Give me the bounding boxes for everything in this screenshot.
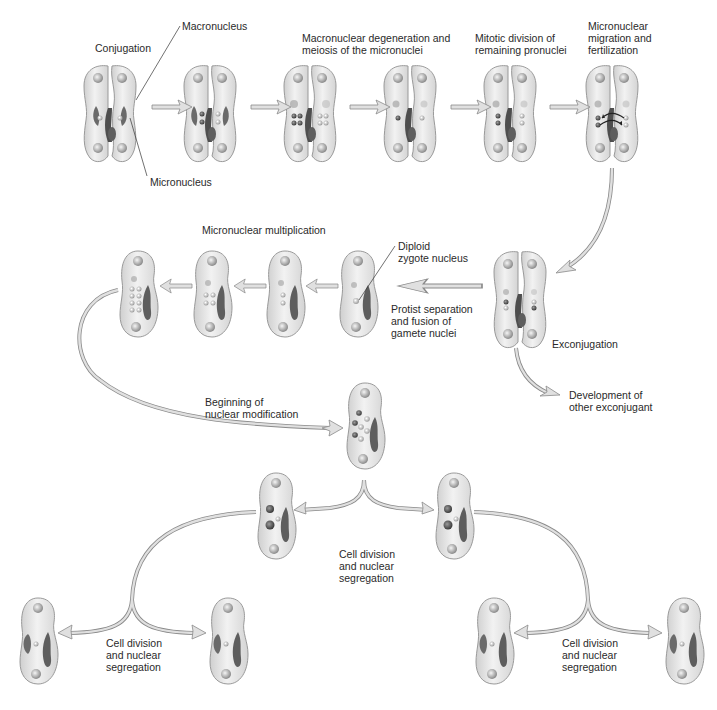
label-cell-division-left: Cell division and nuclear segregation: [106, 637, 162, 673]
arrow-left-icon: [234, 279, 266, 293]
label-macronucleus: Macronucleus: [182, 20, 247, 32]
final-cell-1: [20, 598, 58, 684]
label-beginning-modification: Beginning of nuclear modification: [205, 396, 298, 420]
label-micronucleus: Micronucleus: [150, 176, 212, 188]
multiplication-cell-1: [267, 251, 305, 337]
label-protist-separation: Protist separation and fusion of gamete …: [391, 303, 473, 339]
daughter-cell-left: [258, 473, 296, 559]
label-cell-division-right: Cell division and nuclear segregation: [562, 637, 618, 673]
arrow-right-icon: [550, 100, 590, 114]
multiplication-cell-2: [194, 251, 232, 337]
label-macronuclear-degeneration: Macronuclear degeneration and meiosis of…: [302, 32, 450, 56]
arrow-left-icon: [306, 279, 338, 293]
label-development-other: Development of other exconjugant: [569, 389, 652, 413]
stage-4-cell: [384, 66, 436, 162]
exconjugation-cell: [494, 252, 546, 348]
label-exconjugation: Exconjugation: [552, 338, 618, 350]
multiplication-cell-3: [120, 251, 158, 337]
arrow-right-icon: [451, 100, 491, 114]
daughter-cell-right: [436, 473, 474, 559]
arrow-right-icon: [251, 100, 291, 114]
stage-conjugation-cell: [84, 66, 136, 162]
curve-arrow-development: [516, 348, 548, 393]
stage-5-cell: [484, 66, 536, 162]
stage-6-cell: [586, 66, 638, 162]
zygote-cell: [340, 251, 378, 337]
label-mitotic-division: Mitotic division of remaining pronuclei: [475, 32, 567, 56]
final-cell-2: [210, 598, 248, 684]
final-cell-4: [666, 598, 704, 684]
label-conjugation: Conjugation: [95, 42, 151, 54]
conjugation-lifecycle-diagram: [0, 0, 717, 710]
stage-3-cell: [284, 66, 336, 162]
label-micronuclear-multiplication: Micronuclear multiplication: [202, 224, 326, 236]
macronucleus-pointer: [136, 26, 180, 100]
arrow-left-icon: [398, 279, 482, 293]
label-diploid-zygote: Diploid zygote nucleus: [398, 240, 468, 264]
arrow-right-icon: [350, 100, 390, 114]
arrow-left-icon: [160, 279, 192, 293]
label-cell-division-center: Cell division and nuclear segregation: [339, 548, 395, 584]
final-cell-3: [476, 598, 514, 684]
nuclear-modification-cell: [347, 383, 385, 469]
stage-2-cell: [184, 66, 236, 162]
label-micronuclear-migration: Micronuclear migration and fertilization: [588, 20, 652, 56]
